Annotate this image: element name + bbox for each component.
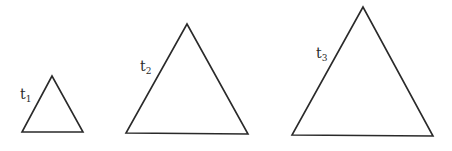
label-t3: t3 — [316, 46, 327, 63]
triangle-t3 — [292, 7, 433, 136]
label-t2: t2 — [140, 59, 151, 76]
triangles-diagram — [0, 0, 452, 151]
triangle-t2 — [126, 24, 248, 134]
triangle-t1 — [22, 76, 83, 132]
label-t1: t1 — [20, 87, 31, 104]
